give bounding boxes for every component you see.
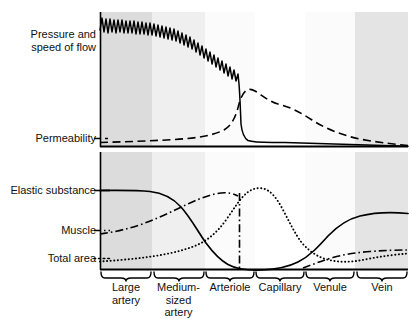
brace-medium-sized-artery bbox=[154, 272, 204, 282]
band-vein-upper bbox=[355, 12, 408, 147]
brace-large-artery bbox=[101, 272, 151, 282]
category-braces bbox=[101, 272, 407, 282]
band-capillary-upper bbox=[255, 12, 305, 147]
band-large-artery-lower bbox=[100, 152, 152, 270]
brace-venule bbox=[306, 272, 354, 282]
band-arteriole-upper bbox=[205, 12, 255, 147]
band-capillary-lower bbox=[255, 152, 305, 270]
brace-vein bbox=[357, 272, 407, 282]
band-vein-lower bbox=[355, 152, 408, 270]
brace-arteriole bbox=[206, 272, 254, 282]
band-medium-artery-lower bbox=[152, 152, 205, 270]
brace-capillary bbox=[256, 272, 304, 282]
band-venule-upper bbox=[305, 12, 355, 147]
